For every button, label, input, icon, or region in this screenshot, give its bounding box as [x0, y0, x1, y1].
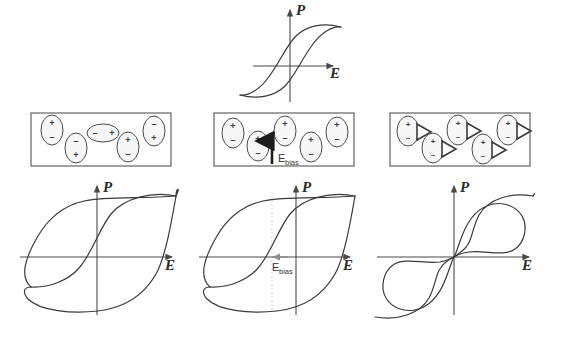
dipole-1-bottom-sign: –	[230, 135, 235, 145]
y-axis-label: P	[103, 179, 113, 195]
axes	[253, 10, 333, 102]
x-axis-label: E	[342, 257, 353, 273]
dipole-1: + –	[222, 118, 244, 148]
dipole-4: + –	[300, 132, 322, 162]
dipole-3-bottom-sign: –	[282, 133, 287, 143]
defect-dipole-3-bottom-sign: –	[456, 132, 461, 141]
x-axis-label: E	[521, 257, 532, 273]
dipole-3-top-sign: +	[282, 119, 287, 129]
y-axis-label: P	[460, 179, 470, 195]
dipole-4: + –	[117, 132, 139, 162]
axes	[20, 186, 172, 315]
defect-dipole-2-bottom-sign: –	[431, 150, 436, 159]
y-axis-label: P	[296, 2, 306, 18]
dipole-3: + –	[274, 116, 296, 146]
axes	[199, 186, 350, 315]
dipole-4-top-sign: +	[308, 135, 313, 145]
dipole-2-top-sign: +	[255, 134, 260, 144]
defect-dipole-1-bottom-sign: –	[406, 133, 411, 142]
defect-dipole-4-bottom-sign: –	[481, 151, 486, 160]
defect-dipoles-box: + – + – + – + – + –	[390, 113, 531, 166]
defect-dipole-5-bottom-sign: –	[506, 132, 511, 141]
bias-label-sub: bias	[285, 158, 299, 167]
dipole-5-top-sign: –	[151, 119, 156, 129]
dipole-3-left-sign: –	[92, 128, 97, 138]
chart-shifted-hysteresis: E bias P E	[199, 179, 355, 315]
dipole-5: – +	[143, 116, 165, 146]
ferroelectric-hysteresis-figure: P E + – – + – + + – – +	[0, 0, 561, 340]
dipole-2: + –	[247, 131, 269, 161]
dipole-4-bottom-sign: –	[125, 149, 130, 159]
x-axis-label: E	[329, 65, 340, 81]
hysteresis-return-branch	[25, 196, 176, 287]
dipole-1-bottom-sign: –	[49, 132, 54, 142]
y-axis-label: P	[302, 179, 312, 195]
defect-dipole-4-top-sign: +	[481, 138, 486, 147]
dipole-5-top-sign: +	[334, 120, 339, 130]
bias-label-sub: bias	[279, 267, 293, 276]
defect-dipole-1-top-sign: +	[406, 120, 411, 129]
dipole-1: + –	[41, 115, 63, 145]
dipole-4-top-sign: +	[125, 135, 130, 145]
hysteresis-lower-branch	[24, 196, 176, 312]
dipole-1-top-sign: +	[230, 121, 235, 131]
dipole-2-top-sign: –	[73, 136, 78, 146]
dipole-5-bottom-sign: +	[151, 133, 156, 143]
dipole-3-right-sign: +	[109, 128, 114, 138]
dipole-2: – +	[65, 133, 87, 163]
axes	[377, 186, 529, 315]
dipole-5: + –	[326, 117, 348, 147]
hysteresis-upper-branch	[31, 194, 176, 287]
aligned-dipoles-box: + – + – + – + – + – E bias	[214, 113, 354, 167]
dipole-4-bottom-sign: –	[308, 149, 313, 159]
defect-dipole-2-top-sign: +	[431, 137, 436, 146]
dipole-5-bottom-sign: –	[334, 134, 339, 144]
x-axis-label: E	[164, 257, 175, 273]
dipole-3: – +	[87, 124, 119, 142]
dipole-2-bottom-sign: +	[73, 150, 78, 160]
hysteresis-tip-right	[176, 189, 178, 196]
defect-dipole-3-top-sign: +	[456, 119, 461, 128]
dipole-1-top-sign: +	[49, 118, 54, 128]
dipole-2-bottom-sign: –	[255, 148, 260, 158]
chart-pinched-hysteresis: P E	[375, 179, 535, 318]
hysteresis-lower-branch	[203, 196, 355, 312]
chart-symmetric-hysteresis: P E	[20, 179, 178, 315]
chart-pristine-hysteresis-top: P E	[240, 2, 341, 102]
pinched-tip-right	[533, 194, 535, 196]
defect-dipole-5-top-sign: +	[506, 119, 511, 128]
random-dipoles-box: + – – + – + + – – +	[31, 113, 171, 166]
